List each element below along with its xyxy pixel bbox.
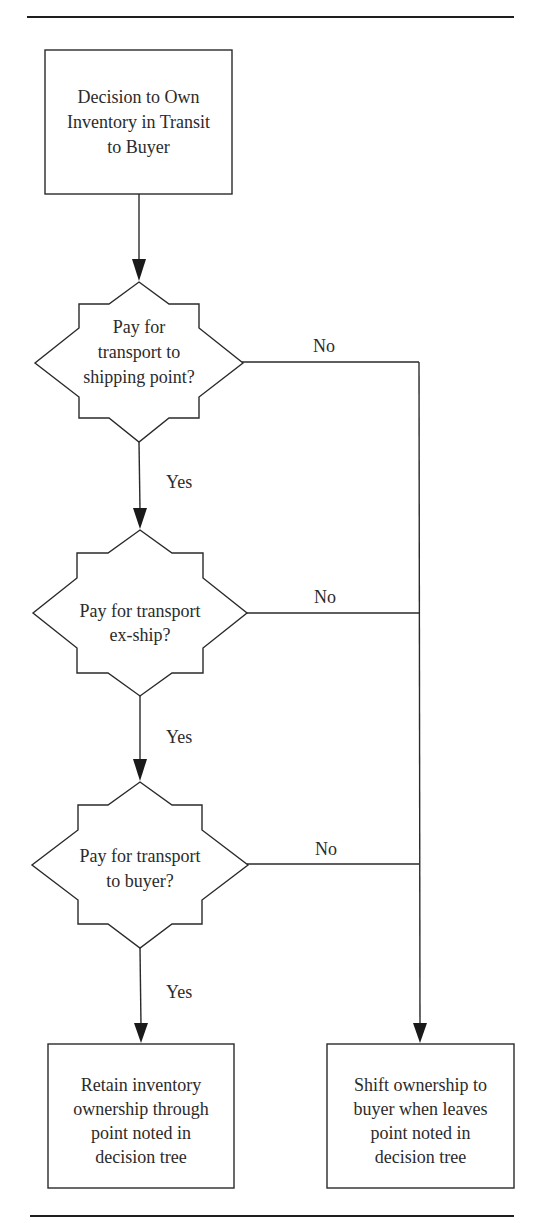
decision-2-line-2: ex-ship? [110,625,171,645]
outcome-shift-box: Shift ownership to buyer when leaves poi… [327,1044,514,1188]
edge-d3-yes [140,948,141,1026]
start-box: Decision to Own Inventory in Transit to … [45,50,232,194]
decision-2: Pay for transport ex-ship? [33,530,247,696]
start-box-line-2: Inventory in Transit [67,112,210,132]
outcome-shift-line-1: Shift ownership to [354,1075,487,1095]
edge-label-d1-no: No [313,336,335,356]
arrowhead-d2 [133,508,147,529]
start-box-line-1: Decision to Own [78,87,200,107]
edge-label-d1-yes: Yes [166,472,192,492]
decision-3-line-2: to buyer? [106,871,173,891]
arrowhead-retain [134,1023,148,1043]
edge-label-d3-yes: Yes [166,982,192,1002]
edge-label-d3-no: No [315,839,337,859]
outcome-retain-line-4: decision tree [95,1147,186,1167]
edge-label-d2-no: No [314,587,336,607]
decision-3: Pay for transport to buyer? [32,782,248,948]
decision-2-line-1: Pay for transport [80,601,201,621]
outcome-retain-line-1: Retain inventory [81,1075,201,1095]
decision-1: Pay for transport to shipping point? [35,282,243,442]
decision-1-line-3: shipping point? [83,367,195,387]
outcome-shift-line-3: point noted in [371,1123,471,1143]
outcome-retain-box: Retain inventory ownership through point… [48,1044,234,1188]
arrowhead-d3 [133,759,147,781]
decision-1-line-1: Pay for [113,317,166,337]
start-box-line-3: to Buyer [107,137,170,157]
flowchart-canvas: Decision to Own Inventory in Transit to … [0,0,538,1223]
arrowhead-shift [413,1023,427,1043]
decision-3-line-1: Pay for transport [80,846,201,866]
edge-label-d2-yes: Yes [166,727,192,747]
outcome-retain-line-2: ownership through [73,1099,208,1119]
decision-1-shape [35,282,243,442]
outcome-shift-line-2: buyer when leaves [354,1099,488,1119]
outcome-shift-line-4: decision tree [375,1147,466,1167]
decision-1-line-2: transport to [98,342,181,362]
arrowhead-d1 [132,259,146,281]
outcome-retain-line-3: point noted in [91,1123,191,1143]
edge-no-trunk [419,362,420,1026]
edge-d1-yes [139,442,140,510]
flowchart-figure: Decision to Own Inventory in Transit to … [0,0,538,1223]
